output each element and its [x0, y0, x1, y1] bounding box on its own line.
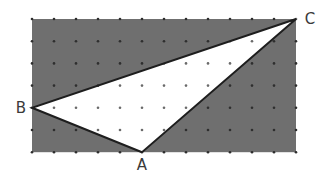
- vertex-label-c: C: [305, 10, 315, 28]
- grid-dot: [75, 40, 78, 43]
- grid-dot: [75, 107, 78, 110]
- grid-dot: [97, 151, 100, 154]
- grid-dot: [229, 62, 232, 65]
- grid-dot: [141, 62, 144, 65]
- grid-dot: [251, 84, 254, 87]
- grid-dot: [141, 129, 144, 132]
- vertex-label-b: B: [16, 99, 26, 117]
- grid-dot: [251, 107, 254, 110]
- grid-dot: [163, 151, 166, 154]
- grid-dot: [75, 62, 78, 65]
- grid-dot: [97, 107, 100, 110]
- grid-dot: [53, 129, 56, 132]
- grid-dot: [119, 84, 122, 87]
- grid-dot: [207, 151, 210, 154]
- grid-dot: [229, 151, 232, 154]
- grid-dot: [185, 84, 188, 87]
- grid-dot: [75, 151, 78, 154]
- grid-dot: [163, 84, 166, 87]
- grid-dot: [119, 18, 122, 21]
- grid-triangle-diagram: A B C: [0, 0, 326, 185]
- grid-dot: [97, 129, 100, 132]
- grid-dot: [295, 40, 298, 43]
- grid-dot: [163, 129, 166, 132]
- grid-dot: [119, 129, 122, 132]
- grid-dot: [273, 129, 276, 132]
- grid-dot: [163, 107, 166, 110]
- grid-dot: [251, 18, 254, 21]
- grid-dot: [53, 151, 56, 154]
- grid-dot: [119, 151, 122, 154]
- grid-dot: [295, 151, 298, 154]
- grid-dot: [75, 84, 78, 87]
- grid-dot: [207, 84, 210, 87]
- grid-dot: [185, 62, 188, 65]
- grid-dot: [229, 18, 232, 21]
- grid-dot: [273, 151, 276, 154]
- grid-dot: [141, 107, 144, 110]
- grid-dot: [53, 107, 56, 110]
- grid-dot: [119, 107, 122, 110]
- grid-dot: [229, 107, 232, 110]
- grid-dot: [31, 151, 34, 154]
- grid-dot: [229, 84, 232, 87]
- grid-dot: [207, 40, 210, 43]
- grid-dot: [119, 40, 122, 43]
- grid-dot: [273, 107, 276, 110]
- grid-dot: [119, 62, 122, 65]
- grid-dot: [75, 129, 78, 132]
- grid-dot: [185, 129, 188, 132]
- grid-dot: [53, 18, 56, 21]
- grid-dot: [295, 62, 298, 65]
- grid-dot: [53, 62, 56, 65]
- grid-dot: [207, 18, 210, 21]
- grid-dot: [207, 129, 210, 132]
- grid-dot: [31, 40, 34, 43]
- grid-dot: [251, 151, 254, 154]
- grid-dot: [31, 84, 34, 87]
- grid-dot: [141, 84, 144, 87]
- grid-dot: [31, 129, 34, 132]
- grid-dot: [141, 18, 144, 21]
- grid-dot: [31, 18, 34, 21]
- grid-dot: [273, 40, 276, 43]
- grid-dot: [207, 62, 210, 65]
- grid-dot: [97, 18, 100, 21]
- grid-dot: [163, 40, 166, 43]
- grid-dot: [75, 18, 78, 21]
- grid-dot: [185, 40, 188, 43]
- grid-dot: [251, 129, 254, 132]
- grid-dot: [185, 107, 188, 110]
- grid-dot: [97, 40, 100, 43]
- grid-dot: [97, 62, 100, 65]
- grid-dot: [251, 40, 254, 43]
- grid-dot: [163, 18, 166, 21]
- vertex-label-a: A: [137, 156, 148, 174]
- grid-dot: [207, 107, 210, 110]
- grid-dot: [53, 84, 56, 87]
- grid-dot: [251, 62, 254, 65]
- grid-dot: [273, 84, 276, 87]
- grid-dot: [295, 107, 298, 110]
- grid-dot: [185, 151, 188, 154]
- grid-dot: [31, 62, 34, 65]
- grid-dot: [185, 18, 188, 21]
- grid-dot: [273, 62, 276, 65]
- grid-dot: [141, 40, 144, 43]
- grid-dot: [295, 129, 298, 132]
- grid-dot: [295, 84, 298, 87]
- grid-dot: [53, 40, 56, 43]
- grid-dot: [229, 129, 232, 132]
- grid-dot: [273, 18, 276, 21]
